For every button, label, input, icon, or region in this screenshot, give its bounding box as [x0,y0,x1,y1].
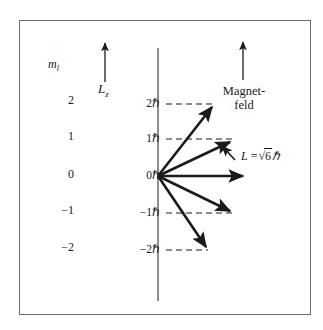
angular-momentum-magnitude-label: L =√6ℏ [241,150,280,163]
tick-label-minus-1hbar: −1ℏ [124,206,160,218]
annotation-pointer-arrow [222,146,235,160]
momentum-vector-m1 [158,142,230,176]
annotation-symbol: L [241,149,248,163]
tick-label-1hbar: 1ℏ [128,132,160,144]
quantum-number-value-2: 2 [40,94,74,107]
quantum-number-header: ml [48,58,59,74]
quantum-number-value-0: 0 [40,168,74,181]
tick-label-minus-2hbar: −2ℏ [124,243,160,255]
quantum-number-value-minus-2: −2 [40,241,74,254]
figure-page: ml 2 1 0 −1 −2 Lz Magnet- feld 2ℏ 1ℏ 0ℏ … [0,0,323,330]
tick-label-0hbar: 0ℏ [128,169,160,181]
sqrt-radicand: 6 [264,148,272,163]
magnetic-field-label-line2: feld [234,98,253,112]
lz-axis-label: Lz [98,82,109,99]
momentum-vector-m2 [158,107,212,176]
annotation-hbar-unit: ℏ [272,149,280,163]
tick-label-2hbar: 2ℏ [128,97,160,109]
magnetic-field-label-line1: Magnet- [223,84,265,98]
quantum-number-value-minus-1: −1 [40,204,74,217]
magnetic-field-label: Magnet- feld [215,84,273,112]
vector-diagram-canvas [0,0,323,330]
annotation-equals: = [251,149,258,163]
quantum-number-value-1: 1 [40,130,74,143]
sqrt-group: √6 [257,150,272,163]
